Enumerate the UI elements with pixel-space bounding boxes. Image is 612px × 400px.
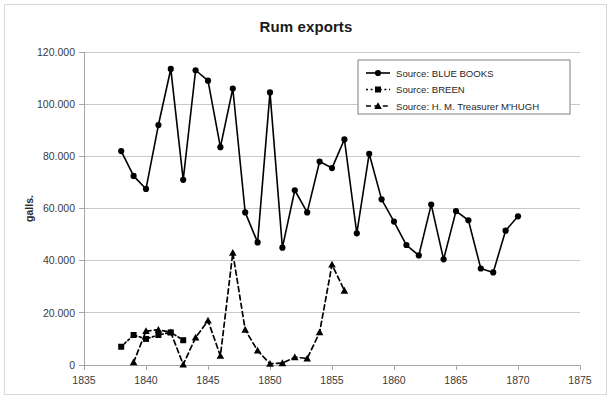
y-tick-label: 100.000 <box>37 98 75 110</box>
data-point <box>416 252 422 258</box>
data-point <box>204 317 212 324</box>
data-point <box>179 361 187 368</box>
x-tick-label: 1855 <box>320 374 344 386</box>
data-point <box>130 359 138 366</box>
chart-svg: 020.00040.00060.00080.000100.000120.0001… <box>0 0 612 400</box>
data-point <box>118 344 124 350</box>
data-point <box>131 173 137 179</box>
data-point <box>180 177 186 183</box>
data-point <box>304 209 310 215</box>
data-point <box>341 287 349 294</box>
data-point <box>341 136 347 142</box>
data-point <box>279 245 285 251</box>
data-point <box>255 239 261 245</box>
data-point <box>241 326 249 333</box>
x-tick-label: 1865 <box>444 374 468 386</box>
series-1 <box>118 329 186 349</box>
legend-swatch-marker <box>375 87 381 93</box>
data-point <box>465 217 471 223</box>
chart-legend: Source: BLUE BOOKSSource: BREENSource: H… <box>358 60 570 114</box>
y-tick-label: 80.000 <box>43 150 75 162</box>
series-2 <box>130 249 348 367</box>
data-point <box>229 249 237 256</box>
data-point <box>217 352 225 359</box>
data-point <box>267 89 273 95</box>
data-point <box>230 85 236 91</box>
data-point <box>155 122 161 128</box>
data-point <box>428 201 434 207</box>
y-tick-label: 60.000 <box>43 202 75 214</box>
data-point <box>366 151 372 157</box>
data-point <box>403 242 409 248</box>
x-tick-label: 1835 <box>72 374 96 386</box>
x-tick-label: 1870 <box>506 374 530 386</box>
data-point <box>354 230 360 236</box>
data-point <box>292 187 298 193</box>
legend-label: Source: BREEN <box>396 84 465 95</box>
data-point <box>317 158 323 164</box>
data-point <box>291 353 299 360</box>
data-point <box>515 213 521 219</box>
chart-plot-area: 020.00040.00060.00080.000100.000120.0001… <box>0 0 612 400</box>
y-tick-label: 40.000 <box>43 254 75 266</box>
legend-label: Source: BLUE BOOKS <box>396 68 494 79</box>
series-line <box>134 253 345 365</box>
data-point <box>118 148 124 154</box>
y-axis-title: galls. <box>23 195 35 222</box>
data-point <box>143 186 149 192</box>
data-point <box>155 332 161 338</box>
data-point <box>193 67 199 73</box>
data-point <box>478 265 484 271</box>
data-point <box>441 256 447 262</box>
data-point <box>180 337 186 343</box>
x-tick-label: 1840 <box>134 374 158 386</box>
data-point <box>379 196 385 202</box>
data-point <box>503 228 509 234</box>
data-point <box>391 218 397 224</box>
data-point <box>453 208 459 214</box>
data-point <box>316 329 324 336</box>
legend-swatch-marker <box>375 70 381 76</box>
data-point <box>490 269 496 275</box>
legend-label: Source: H. M. Treasurer M'HUGH <box>396 101 539 112</box>
x-tick-label: 1860 <box>382 374 406 386</box>
y-tick-label: 20.000 <box>43 307 75 319</box>
y-tick-label: 0 <box>69 359 75 371</box>
data-point <box>329 165 335 171</box>
x-tick-label: 1850 <box>258 374 282 386</box>
data-point <box>254 347 262 354</box>
y-tick-label: 120.000 <box>37 46 75 58</box>
data-point <box>242 209 248 215</box>
data-point <box>328 261 336 268</box>
data-point <box>217 144 223 150</box>
data-point <box>131 332 137 338</box>
data-point <box>168 66 174 72</box>
x-tick-label: 1875 <box>568 374 592 386</box>
data-point <box>205 78 211 84</box>
x-tick-label: 1845 <box>196 374 220 386</box>
